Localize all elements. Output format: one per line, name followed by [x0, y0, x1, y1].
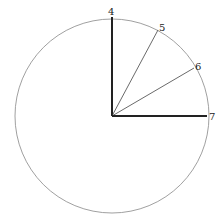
label-5: 5	[159, 22, 165, 33]
label-4: 4	[108, 6, 114, 17]
label-6: 6	[195, 61, 201, 72]
radius-5	[112, 30, 158, 116]
radius-6	[112, 68, 194, 116]
circle-diagram: 4 5 6 7	[0, 0, 220, 224]
label-7: 7	[209, 111, 215, 122]
